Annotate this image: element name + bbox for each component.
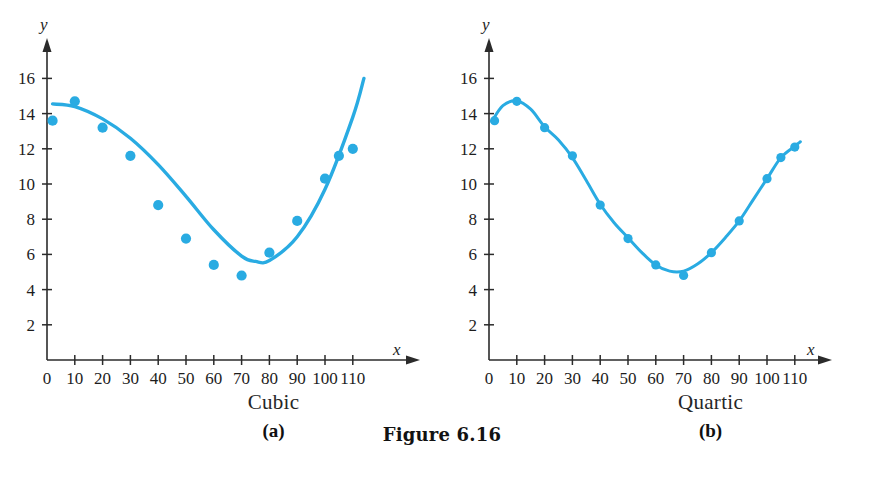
data-point <box>334 151 344 161</box>
data-point <box>568 151 577 160</box>
y-tick-label: 14 <box>460 105 478 124</box>
x-tick-label: 80 <box>703 369 720 388</box>
cubic-fit-curve <box>53 78 364 262</box>
y-tick-label: 4 <box>27 281 36 300</box>
cubic-data-points <box>47 96 357 280</box>
y-axis-arrowhead <box>43 38 52 52</box>
y-tick-label: 16 <box>18 69 35 88</box>
x-tick-label: 90 <box>731 369 748 388</box>
panel-b-title: Quartic <box>442 390 884 415</box>
data-point <box>490 116 499 125</box>
data-point <box>512 97 521 106</box>
x-tick-label: 60 <box>205 369 222 388</box>
panel-a-title: Cubic <box>0 390 442 415</box>
figure-page: 0102030405060708090100110 246810121416 x… <box>0 0 884 479</box>
data-point <box>540 123 549 132</box>
x-tick-label: 50 <box>178 369 195 388</box>
data-point <box>209 260 219 270</box>
y-axis-arrowhead <box>485 38 494 52</box>
cubic-plot: 0102030405060708090100110 246810121416 x… <box>0 0 442 400</box>
x-tick-label: 70 <box>233 369 250 388</box>
y-tick-label: 14 <box>18 105 36 124</box>
x-tick-label: 70 <box>675 369 692 388</box>
data-point <box>348 144 358 154</box>
data-point <box>98 123 108 133</box>
x-axis-arrowhead <box>406 356 420 365</box>
x-tick-label: 110 <box>340 369 365 388</box>
y-tick-label: 10 <box>460 175 477 194</box>
quartic-fit-curve <box>492 101 801 272</box>
y-axis-label: y <box>38 15 48 34</box>
x-tick-label: 0 <box>43 369 52 388</box>
x-tick-label: 40 <box>150 369 167 388</box>
y-tick-label: 12 <box>18 140 35 159</box>
data-point <box>651 260 660 269</box>
figure-label: Figure 6.16 <box>0 424 884 445</box>
data-point <box>790 142 799 151</box>
data-point <box>762 174 771 183</box>
data-point <box>623 234 632 243</box>
quartic-plot: 0102030405060708090100110 246810121416 x… <box>442 0 884 400</box>
data-point <box>70 96 80 106</box>
data-point <box>181 233 191 243</box>
x-tick-label: 100 <box>754 369 780 388</box>
data-point <box>292 216 302 226</box>
y-tick-label: 6 <box>27 245 36 264</box>
y-tick-label: 4 <box>469 281 478 300</box>
y-tick-label: 16 <box>460 69 477 88</box>
data-point <box>47 116 57 126</box>
y-tick-label: 10 <box>18 175 35 194</box>
y-axis-label: y <box>480 15 490 34</box>
x-tick-label: 60 <box>647 369 664 388</box>
data-point <box>264 248 274 258</box>
x-axis-label: x <box>392 340 401 359</box>
x-tick-label: 90 <box>289 369 306 388</box>
x-tick-label: 30 <box>122 369 139 388</box>
panel-cubic: 0102030405060708090100110 246810121416 x… <box>0 0 442 479</box>
y-tick-label: 8 <box>469 210 478 229</box>
data-point <box>237 270 247 280</box>
x-tick-label: 10 <box>508 369 525 388</box>
data-point <box>596 201 605 210</box>
y-tick-label: 6 <box>469 245 478 264</box>
x-tick-label: 50 <box>620 369 637 388</box>
data-point <box>320 174 330 184</box>
data-point <box>776 153 785 162</box>
x-tick-label: 80 <box>261 369 278 388</box>
y-tick-label: 2 <box>469 316 478 335</box>
x-tick-label: 0 <box>485 369 494 388</box>
y-tick-label: 12 <box>460 140 477 159</box>
data-point <box>707 248 716 257</box>
y-tick-label: 2 <box>27 316 36 335</box>
x-axis-label: x <box>806 340 815 359</box>
data-point <box>125 151 135 161</box>
x-tick-label: 10 <box>66 369 83 388</box>
x-tick-label: 110 <box>782 369 807 388</box>
quartic-axes <box>485 38 833 365</box>
x-tick-label: 30 <box>564 369 581 388</box>
panel-quartic: 0102030405060708090100110 246810121416 x… <box>442 0 884 479</box>
x-tick-label: 100 <box>312 369 338 388</box>
data-point <box>153 200 163 210</box>
quartic-data-points <box>490 97 799 280</box>
x-tick-label: 20 <box>536 369 553 388</box>
y-tick-label: 8 <box>27 210 36 229</box>
x-tick-label: 40 <box>592 369 609 388</box>
data-point <box>735 216 744 225</box>
data-point <box>679 271 688 280</box>
x-axis-arrowhead <box>818 356 832 365</box>
x-tick-label: 20 <box>94 369 111 388</box>
